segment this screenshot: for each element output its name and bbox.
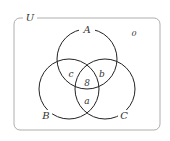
set-label-c: C [120,110,128,121]
venn-diagram: U A B C 0 c b 8 a [0,0,170,141]
region-abc-value: 8 [84,78,90,88]
set-label-b: B [41,110,49,121]
region-ab-value: c [68,69,73,79]
universe-label: U [26,12,35,23]
region-outside-value: 0 [131,29,136,38]
region-ac-value: b [99,69,105,79]
region-bc-value: a [84,96,89,106]
set-label-a: A [82,24,90,35]
